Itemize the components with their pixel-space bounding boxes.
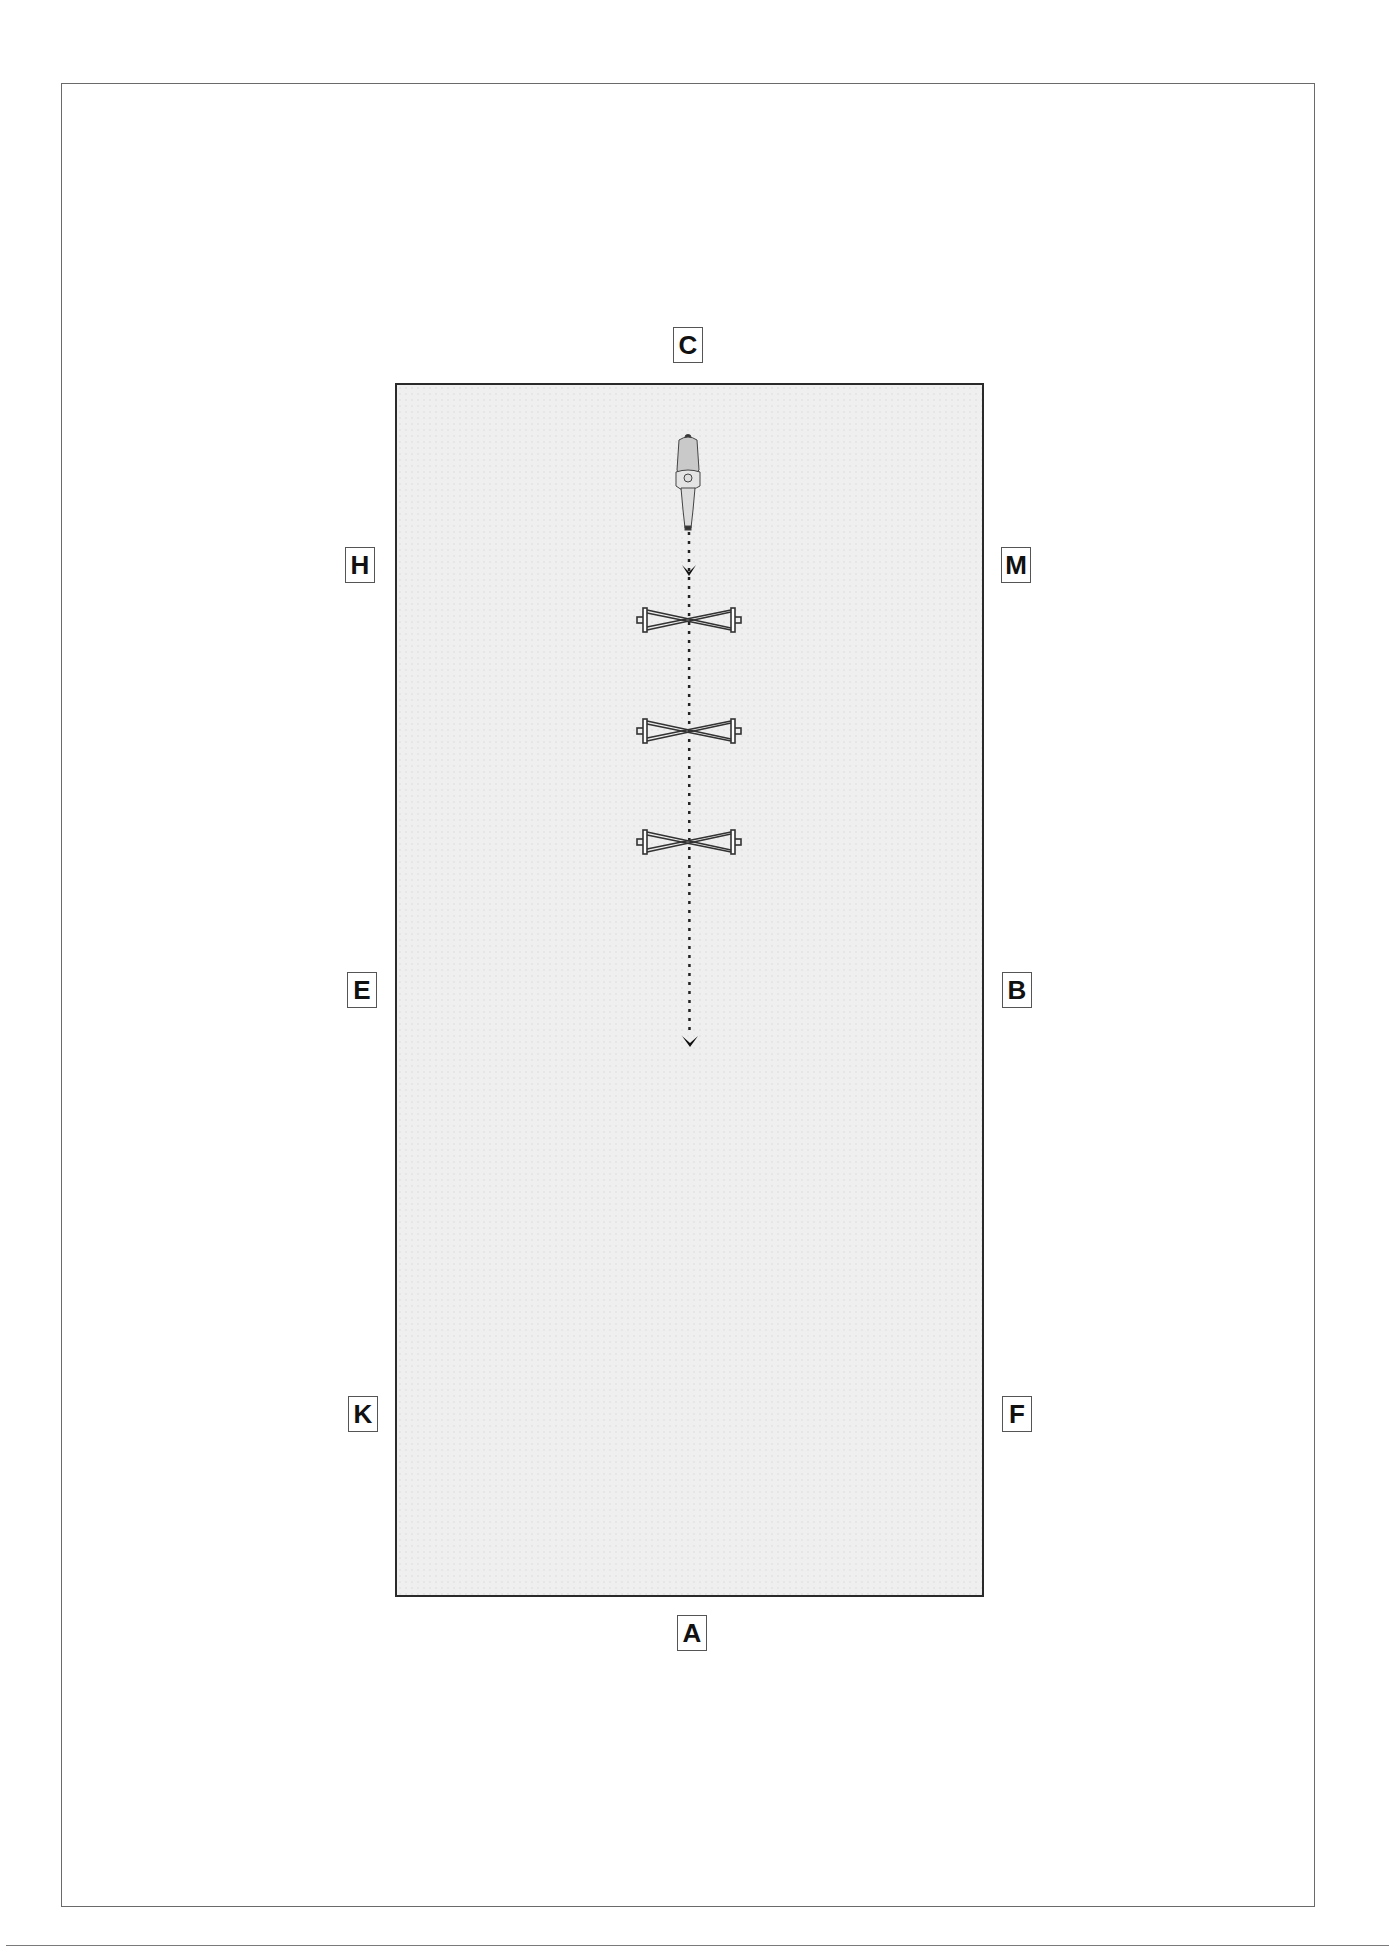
marker-b: B [1002, 972, 1032, 1008]
marker-h: H [345, 547, 375, 583]
marker-a: A [677, 1615, 707, 1651]
marker-f: F [1002, 1396, 1032, 1432]
marker-m: M [1001, 547, 1031, 583]
arena [395, 383, 984, 1597]
footer-divider [6, 1945, 1389, 1946]
marker-k: K [348, 1396, 378, 1432]
marker-e: E [347, 972, 377, 1008]
marker-c: C [673, 327, 703, 363]
